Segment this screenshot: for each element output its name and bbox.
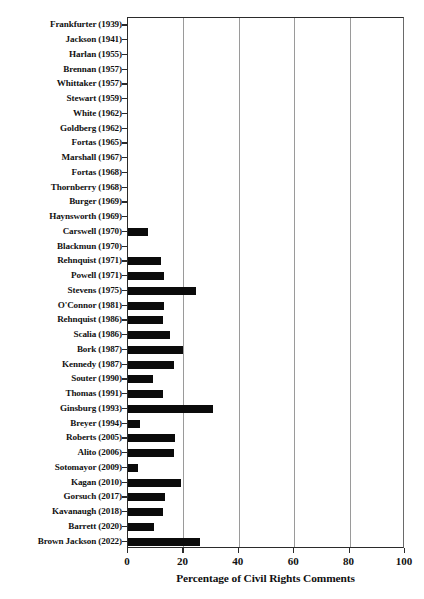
x-axis-tick — [238, 548, 239, 553]
y-axis-label: Alito (2006) — [0, 447, 122, 457]
y-axis-label: Fortas (1968) — [0, 167, 122, 177]
y-axis-label: Burger (1969) — [0, 196, 122, 206]
bar — [128, 479, 181, 487]
bar — [128, 493, 165, 501]
bar — [128, 420, 140, 428]
y-axis-label: Carswell (1970) — [0, 226, 122, 236]
x-axis-tick-label: 0 — [124, 555, 130, 568]
x-axis-tick — [349, 548, 350, 553]
x-axis-tick-label: 20 — [177, 555, 188, 568]
x-axis-tick-label: 60 — [288, 555, 299, 568]
y-axis-label: Stevens (1975) — [0, 285, 122, 295]
y-axis-label: White (1962) — [0, 108, 122, 118]
x-axis-tick — [182, 548, 183, 553]
bar — [128, 523, 154, 531]
y-axis-label: Kagan (2010) — [0, 477, 122, 487]
y-axis-tick — [122, 334, 127, 335]
bar — [128, 302, 164, 310]
x-axis-tick — [293, 548, 294, 553]
y-axis-tick — [122, 482, 127, 483]
y-axis-tick — [122, 98, 127, 99]
y-axis-tick — [122, 54, 127, 55]
bar — [128, 228, 148, 236]
y-axis-tick — [122, 142, 127, 143]
y-axis-tick — [122, 157, 127, 158]
x-axis-tick — [127, 548, 128, 553]
y-axis-tick — [122, 452, 127, 453]
y-axis-label: Fortas (1965) — [0, 137, 122, 147]
y-axis-tick — [122, 231, 127, 232]
x-axis-title: Percentage of Civil Rights Comments — [127, 572, 404, 584]
x-axis-tick-label: 100 — [396, 555, 413, 568]
y-axis-label: Blackmun (1970) — [0, 241, 122, 251]
y-axis-label: Scalia (1986) — [0, 329, 122, 339]
y-axis-tick — [122, 187, 127, 188]
y-axis-label: Gorsuch (2017) — [0, 491, 122, 501]
y-axis-tick — [122, 39, 127, 40]
y-axis-tick — [122, 172, 127, 173]
y-axis-label: Jackson (1941) — [0, 34, 122, 44]
y-axis-label: Stewart (1959) — [0, 93, 122, 103]
bar — [128, 508, 163, 516]
bar — [128, 331, 170, 339]
y-axis-tick — [122, 128, 127, 129]
y-axis-label: O'Connor (1981) — [0, 300, 122, 310]
y-axis-label: Thornberry (1968) — [0, 182, 122, 192]
y-axis-label: Ginsburg (1993) — [0, 403, 122, 413]
bar — [128, 257, 161, 265]
bar — [128, 538, 200, 546]
y-axis-tick — [122, 408, 127, 409]
bar — [128, 434, 175, 442]
y-axis-tick — [122, 69, 127, 70]
y-axis-label: Brennan (1957) — [0, 64, 122, 74]
y-axis-label: Breyer (1994) — [0, 418, 122, 428]
bar — [128, 375, 153, 383]
y-axis-label: Kavanaugh (2018) — [0, 506, 122, 516]
bar — [128, 346, 183, 354]
y-axis-tick — [122, 201, 127, 202]
y-axis-tick — [122, 393, 127, 394]
bar — [128, 405, 213, 413]
y-axis-label: Bork (1987) — [0, 344, 122, 354]
y-axis-label: Kennedy (1987) — [0, 359, 122, 369]
y-axis-tick — [122, 290, 127, 291]
y-axis-tick — [122, 467, 127, 468]
y-axis-label: Brown Jackson (2022) — [0, 536, 122, 546]
bar — [128, 464, 138, 472]
bar — [128, 449, 174, 457]
y-axis-label: Sotomayor (2009) — [0, 462, 122, 472]
x-axis-tick — [404, 548, 405, 553]
y-axis-tick — [122, 319, 127, 320]
bar — [128, 287, 196, 295]
y-axis-label: Frankfurter (1939) — [0, 19, 122, 29]
y-axis-tick — [122, 364, 127, 365]
y-axis-tick — [122, 246, 127, 247]
y-axis-label: Whittaker (1957) — [0, 78, 122, 88]
y-axis-label: Marshall (1967) — [0, 152, 122, 162]
bar — [128, 361, 174, 369]
x-axis-tick-label: 80 — [343, 555, 354, 568]
y-axis-tick — [122, 496, 127, 497]
y-axis-label: Rehnquist (1971) — [0, 255, 122, 265]
y-axis-tick — [122, 216, 127, 217]
civil-rights-comments-bar-chart: Frankfurter (1939)Jackson (1941)Harlan (… — [0, 0, 424, 599]
y-axis-label: Powell (1971) — [0, 270, 122, 280]
bar — [128, 272, 164, 280]
y-axis-label: Haynsworth (1969) — [0, 211, 122, 221]
y-axis-tick — [122, 378, 127, 379]
y-axis-tick — [122, 305, 127, 306]
bar-series — [128, 18, 403, 547]
x-axis-tick-label: 40 — [232, 555, 243, 568]
y-axis-tick — [122, 24, 127, 25]
y-axis-label: Goldberg (1962) — [0, 123, 122, 133]
y-axis-tick — [122, 511, 127, 512]
bar — [128, 390, 163, 398]
y-axis-tick — [122, 260, 127, 261]
y-axis-label: Rehnquist (1986) — [0, 314, 122, 324]
y-axis-tick — [122, 349, 127, 350]
y-axis-tick — [122, 437, 127, 438]
y-axis-tick — [122, 113, 127, 114]
y-axis-tick — [122, 83, 127, 84]
y-axis-tick — [122, 526, 127, 527]
y-axis-category-labels: Frankfurter (1939)Jackson (1941)Harlan (… — [0, 17, 122, 548]
